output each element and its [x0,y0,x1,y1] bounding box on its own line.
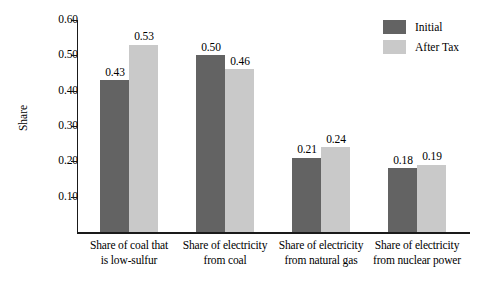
bar-after-tax[interactable] [417,165,446,232]
bar-value-label: 0.19 [412,151,452,163]
legend-swatch-icon [383,20,406,34]
legend-item[interactable]: After Tax [383,39,459,54]
legend-item[interactable]: Initial [383,19,459,34]
y-axis-title: Share [17,88,29,148]
x-axis-line [77,232,470,234]
bar-initial[interactable] [100,80,129,232]
bar-value-label: 0.53 [124,31,164,43]
bar-value-label: 0.24 [316,134,356,146]
bar-group: 0.430.53 [100,20,158,232]
bar-group: 0.500.46 [196,20,254,232]
bar-chart: 0.600.500.400.300.200.10 Share 0.430.530… [0,0,491,292]
category-label-line: Share of electricity [358,238,476,253]
bar-initial[interactable] [388,168,417,232]
category-label-line: from nuclear power [358,253,476,268]
bar-group: 0.210.24 [292,20,350,232]
bar-after-tax[interactable] [225,69,254,232]
legend: InitialAfter Tax [383,19,459,59]
bar-value-label: 0.50 [191,42,231,54]
bar-after-tax[interactable] [321,147,350,232]
bar-initial[interactable] [292,158,321,232]
bar-initial[interactable] [196,55,225,232]
x-axis-category-label: Share of electricityfrom nuclear power [358,238,476,267]
legend-label: After Tax [415,41,459,53]
bar-after-tax[interactable] [129,45,158,232]
legend-label: Initial [415,21,442,33]
legend-swatch-icon [383,40,406,54]
bar-value-label: 0.46 [220,56,260,68]
